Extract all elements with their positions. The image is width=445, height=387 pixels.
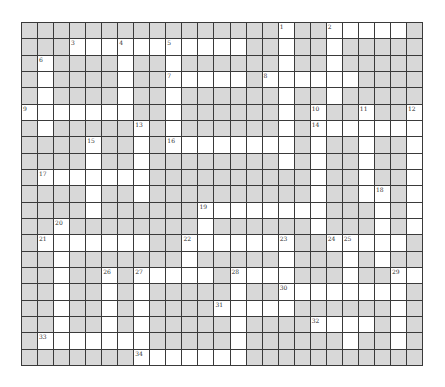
grid-cell-open[interactable] bbox=[375, 203, 390, 218]
grid-cell-open[interactable] bbox=[311, 72, 326, 87]
grid-cell-open[interactable] bbox=[263, 235, 278, 250]
grid-cell-open[interactable] bbox=[311, 284, 326, 299]
grid-cell-open[interactable] bbox=[295, 72, 310, 87]
grid-cell-open[interactable] bbox=[311, 186, 326, 201]
grid-cell-open[interactable] bbox=[102, 317, 117, 332]
grid-cell-open[interactable] bbox=[134, 333, 149, 348]
grid-cell-open[interactable] bbox=[54, 284, 69, 299]
grid-cell-open[interactable] bbox=[182, 72, 197, 87]
grid-cell-open[interactable] bbox=[327, 72, 342, 87]
grid-cell-open[interactable] bbox=[102, 170, 117, 185]
grid-cell-open[interactable] bbox=[247, 268, 262, 283]
grid-cell-open[interactable] bbox=[54, 268, 69, 283]
grid-cell-open[interactable] bbox=[231, 350, 246, 365]
grid-cell-open[interactable] bbox=[343, 268, 358, 283]
grid-cell-open[interactable] bbox=[214, 137, 229, 152]
grid-cell-open[interactable] bbox=[182, 350, 197, 365]
grid-cell-open[interactable] bbox=[54, 105, 69, 120]
grid-cell-open[interactable]: 22 bbox=[182, 235, 197, 250]
grid-cell-open[interactable] bbox=[247, 301, 262, 316]
grid-cell-open[interactable]: 1 bbox=[279, 23, 294, 38]
grid-cell-open[interactable] bbox=[38, 72, 53, 87]
grid-cell-open[interactable] bbox=[311, 219, 326, 234]
grid-cell-open[interactable]: 33 bbox=[38, 333, 53, 348]
grid-cell-open[interactable] bbox=[359, 154, 374, 169]
grid-cell-open[interactable] bbox=[327, 317, 342, 332]
grid-cell-open[interactable] bbox=[391, 333, 406, 348]
grid-cell-open[interactable] bbox=[198, 350, 213, 365]
grid-cell-open[interactable] bbox=[231, 203, 246, 218]
grid-cell-open[interactable]: 28 bbox=[231, 268, 246, 283]
grid-cell-open[interactable]: 10 bbox=[311, 105, 326, 120]
grid-cell-open[interactable] bbox=[214, 235, 229, 250]
grid-cell-open[interactable] bbox=[166, 350, 181, 365]
grid-cell-open[interactable] bbox=[118, 105, 133, 120]
grid-cell-open[interactable] bbox=[231, 284, 246, 299]
grid-cell-open[interactable] bbox=[54, 317, 69, 332]
grid-cell-open[interactable] bbox=[231, 72, 246, 87]
grid-cell-open[interactable]: 29 bbox=[391, 268, 406, 283]
grid-cell-open[interactable] bbox=[407, 121, 422, 136]
grid-cell-open[interactable] bbox=[214, 203, 229, 218]
grid-cell-open[interactable] bbox=[375, 121, 390, 136]
grid-cell-open[interactable]: 13 bbox=[134, 121, 149, 136]
grid-cell-open[interactable] bbox=[279, 252, 294, 267]
grid-cell-open[interactable] bbox=[327, 39, 342, 54]
grid-cell-open[interactable]: 32 bbox=[311, 317, 326, 332]
grid-cell-open[interactable] bbox=[86, 154, 101, 169]
grid-cell-open[interactable] bbox=[247, 203, 262, 218]
grid-cell-open[interactable] bbox=[407, 170, 422, 185]
grid-cell-open[interactable] bbox=[166, 121, 181, 136]
grid-cell-open[interactable] bbox=[70, 105, 85, 120]
grid-cell-open[interactable] bbox=[198, 72, 213, 87]
grid-cell-open[interactable] bbox=[118, 56, 133, 71]
grid-cell-open[interactable] bbox=[231, 333, 246, 348]
grid-cell-open[interactable] bbox=[359, 317, 374, 332]
grid-cell-open[interactable] bbox=[118, 333, 133, 348]
grid-cell-open[interactable]: 18 bbox=[375, 186, 390, 201]
grid-cell-open[interactable]: 27 bbox=[134, 268, 149, 283]
grid-cell-open[interactable] bbox=[150, 350, 165, 365]
grid-cell-open[interactable] bbox=[279, 203, 294, 218]
grid-cell-open[interactable] bbox=[391, 121, 406, 136]
grid-cell-open[interactable] bbox=[118, 170, 133, 185]
grid-cell-open[interactable] bbox=[359, 121, 374, 136]
grid-cell-open[interactable] bbox=[102, 284, 117, 299]
grid-cell-open[interactable]: 2 bbox=[327, 23, 342, 38]
grid-cell-open[interactable] bbox=[263, 203, 278, 218]
grid-cell-open[interactable] bbox=[279, 301, 294, 316]
grid-cell-open[interactable] bbox=[279, 88, 294, 103]
grid-cell-open[interactable] bbox=[118, 235, 133, 250]
grid-cell-open[interactable] bbox=[166, 88, 181, 103]
grid-cell-open[interactable] bbox=[295, 284, 310, 299]
grid-cell-open[interactable] bbox=[311, 170, 326, 185]
grid-cell-open[interactable]: 15 bbox=[86, 137, 101, 152]
grid-cell-open[interactable] bbox=[327, 284, 342, 299]
grid-cell-open[interactable] bbox=[359, 137, 374, 152]
grid-cell-open[interactable] bbox=[214, 350, 229, 365]
grid-cell-open[interactable] bbox=[279, 105, 294, 120]
grid-cell-open[interactable] bbox=[70, 170, 85, 185]
grid-cell-open[interactable] bbox=[102, 39, 117, 54]
grid-cell-open[interactable] bbox=[198, 219, 213, 234]
grid-cell-open[interactable] bbox=[198, 268, 213, 283]
grid-cell-open[interactable] bbox=[359, 235, 374, 250]
grid-cell-open[interactable] bbox=[214, 72, 229, 87]
grid-cell-open[interactable] bbox=[54, 333, 69, 348]
grid-cell-open[interactable] bbox=[327, 88, 342, 103]
grid-cell-open[interactable]: 12 bbox=[407, 105, 422, 120]
grid-cell-open[interactable]: 17 bbox=[38, 170, 53, 185]
grid-cell-open[interactable] bbox=[54, 235, 69, 250]
grid-cell-open[interactable] bbox=[263, 301, 278, 316]
grid-cell-open[interactable] bbox=[407, 203, 422, 218]
grid-cell-open[interactable] bbox=[407, 186, 422, 201]
grid-cell-open[interactable] bbox=[343, 252, 358, 267]
grid-cell-open[interactable] bbox=[198, 137, 213, 152]
grid-cell-open[interactable] bbox=[38, 105, 53, 120]
grid-cell-open[interactable]: 11 bbox=[359, 105, 374, 120]
grid-cell-open[interactable] bbox=[343, 72, 358, 87]
grid-cell-open[interactable] bbox=[134, 137, 149, 152]
grid-cell-open[interactable]: 6 bbox=[38, 56, 53, 71]
grid-cell-open[interactable] bbox=[150, 39, 165, 54]
grid-cell-open[interactable]: 31 bbox=[214, 301, 229, 316]
